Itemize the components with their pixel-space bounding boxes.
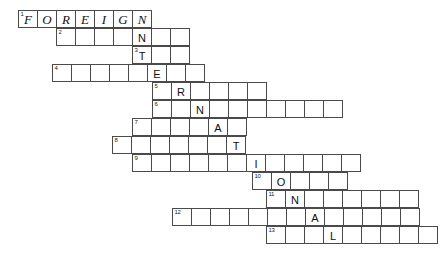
crossword-cell[interactable]: A xyxy=(305,208,325,226)
crossword-cell[interactable]: T xyxy=(226,136,246,154)
crossword-cell[interactable] xyxy=(228,82,248,100)
crossword-cell[interactable] xyxy=(170,46,190,64)
crossword-cell[interactable] xyxy=(323,190,343,208)
crossword-cell[interactable]: 8 xyxy=(112,136,132,154)
crossword-cell[interactable] xyxy=(71,64,91,82)
crossword-cell[interactable] xyxy=(399,190,419,208)
crossword-cell[interactable] xyxy=(209,100,229,118)
crossword-cell[interactable] xyxy=(418,226,438,244)
crossword-cell[interactable] xyxy=(75,28,95,46)
crossword-cell[interactable] xyxy=(247,100,267,118)
crossword-cell[interactable] xyxy=(381,208,401,226)
crossword-cell[interactable] xyxy=(188,136,208,154)
crossword-cell[interactable] xyxy=(166,64,186,82)
crossword-cell[interactable] xyxy=(191,208,211,226)
crossword-cell[interactable] xyxy=(303,154,323,172)
crossword-cell[interactable] xyxy=(227,118,247,136)
crossword-cell[interactable] xyxy=(285,226,305,244)
crossword-cell[interactable] xyxy=(361,226,381,244)
crossword-cell[interactable]: 11 xyxy=(266,190,286,208)
crossword-cell[interactable] xyxy=(304,190,324,208)
crossword-cell[interactable]: 2 xyxy=(56,28,76,46)
crossword-cell[interactable] xyxy=(150,136,170,154)
crossword-cell[interactable] xyxy=(380,226,400,244)
crossword-cell[interactable]: 1F xyxy=(18,10,38,28)
crossword-cell[interactable]: 12 xyxy=(172,208,192,226)
crossword-cell[interactable]: G xyxy=(113,10,133,28)
crossword-cell[interactable] xyxy=(304,226,324,244)
crossword-cell[interactable] xyxy=(151,154,171,172)
crossword-cell[interactable] xyxy=(266,100,286,118)
crossword-cell[interactable] xyxy=(229,208,249,226)
crossword-cell[interactable] xyxy=(309,172,329,190)
crossword-cell[interactable] xyxy=(324,208,344,226)
crossword-cell[interactable] xyxy=(189,154,209,172)
crossword-cell[interactable]: 6 xyxy=(152,100,172,118)
crossword-cell[interactable] xyxy=(343,208,363,226)
crossword-cell[interactable]: 13 xyxy=(266,226,286,244)
crossword-cell[interactable]: 7 xyxy=(132,118,152,136)
crossword-cell[interactable] xyxy=(322,154,342,172)
crossword-cell[interactable]: L xyxy=(323,226,343,244)
crossword-cell[interactable] xyxy=(228,100,248,118)
crossword-cell[interactable] xyxy=(151,118,171,136)
crossword-cell[interactable]: N xyxy=(285,190,305,208)
crossword-cell[interactable]: O xyxy=(271,172,291,190)
crossword-cell[interactable]: A xyxy=(208,118,228,136)
crossword-cell[interactable] xyxy=(328,172,348,190)
crossword-cell[interactable] xyxy=(185,64,205,82)
crossword-cell[interactable]: I xyxy=(94,10,114,28)
crossword-cell[interactable] xyxy=(210,208,230,226)
crossword-cell[interactable] xyxy=(151,46,171,64)
crossword-cell[interactable]: N xyxy=(190,100,210,118)
crossword-cell[interactable]: R xyxy=(171,82,191,100)
crossword-cell[interactable] xyxy=(323,100,343,118)
crossword-cell[interactable] xyxy=(290,172,310,190)
crossword-cell[interactable] xyxy=(151,28,171,46)
crossword-cell[interactable] xyxy=(171,100,191,118)
crossword-cell[interactable] xyxy=(304,100,324,118)
crossword-cell[interactable] xyxy=(209,82,229,100)
crossword-cell[interactable] xyxy=(227,154,247,172)
crossword-cell[interactable] xyxy=(267,208,287,226)
crossword-cell[interactable]: R xyxy=(56,10,76,28)
crossword-cell[interactable]: E xyxy=(147,64,167,82)
crossword-cell[interactable] xyxy=(380,190,400,208)
crossword-cell[interactable]: 9 xyxy=(132,154,152,172)
crossword-cell[interactable] xyxy=(170,154,190,172)
crossword-cell[interactable] xyxy=(286,208,306,226)
crossword-cell[interactable] xyxy=(208,154,228,172)
crossword-cell[interactable] xyxy=(265,154,285,172)
crossword-cell[interactable] xyxy=(362,208,382,226)
crossword-cell[interactable] xyxy=(94,28,114,46)
crossword-cell[interactable]: 10 xyxy=(252,172,272,190)
crossword-cell[interactable] xyxy=(207,136,227,154)
crossword-cell[interactable] xyxy=(285,100,305,118)
crossword-cell[interactable] xyxy=(190,82,210,100)
crossword-cell[interactable] xyxy=(131,136,151,154)
crossword-cell[interactable]: O xyxy=(37,10,57,28)
crossword-cell[interactable] xyxy=(170,118,190,136)
crossword-cell[interactable] xyxy=(284,154,304,172)
crossword-cell[interactable] xyxy=(113,28,133,46)
crossword-cell[interactable] xyxy=(109,64,129,82)
crossword-cell[interactable] xyxy=(90,64,110,82)
crossword-cell[interactable] xyxy=(400,208,420,226)
crossword-cell[interactable]: 4 xyxy=(52,64,72,82)
crossword-cell[interactable] xyxy=(342,190,362,208)
crossword-cell[interactable]: 3T xyxy=(132,46,152,64)
crossword-cell[interactable]: N xyxy=(132,10,152,28)
crossword-cell[interactable]: 5 xyxy=(152,82,172,100)
crossword-cell[interactable] xyxy=(247,82,267,100)
crossword-cell[interactable] xyxy=(248,208,268,226)
crossword-cell[interactable] xyxy=(169,136,189,154)
crossword-cell[interactable]: I xyxy=(246,154,266,172)
crossword-cell[interactable] xyxy=(341,154,361,172)
crossword-cell[interactable]: N xyxy=(132,28,152,46)
crossword-cell[interactable] xyxy=(361,190,381,208)
crossword-cell[interactable] xyxy=(170,28,190,46)
crossword-cell[interactable] xyxy=(189,118,209,136)
crossword-cell[interactable] xyxy=(128,64,148,82)
crossword-cell[interactable] xyxy=(399,226,419,244)
crossword-cell[interactable] xyxy=(342,226,362,244)
